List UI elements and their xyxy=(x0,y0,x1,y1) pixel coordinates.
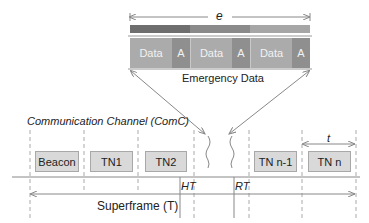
ack-block: A xyxy=(232,38,250,68)
break-squiggle-left xyxy=(206,136,210,168)
slot-boundaries xyxy=(30,130,356,218)
slot-tn-n: TN n xyxy=(308,151,351,172)
slot-duration-label: t xyxy=(327,132,330,144)
emergency-duration-label: e xyxy=(216,9,223,23)
data-block: Data xyxy=(250,38,292,68)
superframe-label: Superframe (T) xyxy=(97,199,178,213)
ht-label: HT xyxy=(181,180,196,192)
channel-title: Communication Channel (ComC) xyxy=(27,115,189,127)
slot-tn-n-1: TN n-1 xyxy=(254,151,297,172)
slot-tn2: TN2 xyxy=(145,151,187,172)
data-block: Data xyxy=(130,38,172,68)
data-block: Data xyxy=(190,38,232,68)
slot-beacon: Beacon xyxy=(35,151,79,172)
break-squiggle-right xyxy=(230,136,234,168)
slot-tn1: TN1 xyxy=(90,151,133,172)
rt-label: RT xyxy=(235,180,249,192)
ack-block: A xyxy=(292,38,310,68)
emergency-data-caption: Emergency Data xyxy=(182,72,264,84)
ack-block: A xyxy=(172,38,190,68)
emergency-bar xyxy=(130,25,310,33)
